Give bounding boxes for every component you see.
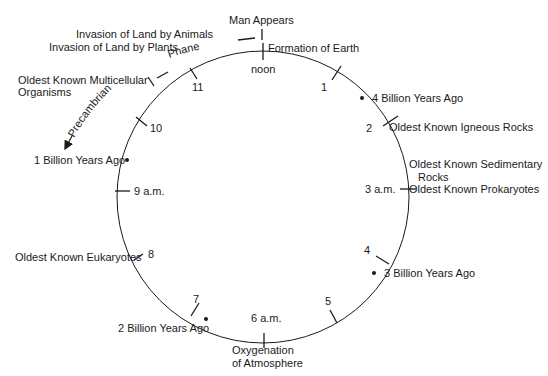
event-formation-of-earth: Formation of Earth: [268, 42, 359, 54]
time-point-dots: [125, 96, 376, 321]
hour-label-11: 11: [192, 81, 203, 93]
event-multicellular-2: Organisms: [18, 86, 72, 98]
time-point-1-billion: 1 Billion Years Ago: [34, 154, 125, 166]
event-land-plants: Invasion of Land by Plants: [49, 41, 179, 53]
hour-label-4: 4: [364, 244, 370, 256]
hour-label-9: 9 a.m.: [134, 185, 165, 197]
hour-label-8: 8: [148, 248, 154, 260]
eon-boundary-connector: [157, 72, 168, 78]
event-man-appears: Man Appears: [229, 14, 294, 26]
event-eukaryotes: Oldest Known Eukaryotes: [15, 251, 142, 263]
eon-precambrian: Precambrian: [65, 82, 113, 139]
multicellular-marker: [148, 77, 154, 86]
dot-2-billion: [204, 317, 208, 321]
event-oxygenation-1: Oxygenation: [232, 344, 294, 356]
hour-label-1: 1: [321, 81, 327, 93]
hour-label-7: 7: [193, 293, 199, 305]
dot-1-billion: [125, 158, 129, 162]
time-point-2-billion: 2 Billion Years Ago: [118, 322, 209, 334]
event-igneous-rocks: Oldest Known Igneous Rocks: [389, 121, 534, 133]
tick-5: [330, 310, 337, 323]
dot-3-billion: [372, 271, 376, 275]
event-prokaryotes: Oldest Known Prokaryotes: [409, 183, 540, 195]
time-point-4-billion: 4 Billion Years Ago: [372, 92, 463, 104]
precambrian-arrow: [66, 136, 72, 147]
event-sedimentary-rocks-1: Oldest Known Sedimentary: [409, 158, 543, 170]
tick-11: [190, 68, 197, 79]
hour-label-10: 10: [150, 122, 162, 134]
geological-clock-diagram: noon 1 2 3 a.m. 4 5 6 a.m. 7 8 9 a.m. 10…: [0, 0, 548, 376]
event-multicellular-1: Oldest Known Multicellular: [18, 74, 148, 86]
eon-precambrian-text: Precambrian: [65, 82, 113, 139]
event-oxygenation-2: of Atmosphere: [232, 357, 303, 369]
event-land-animals: Invasion of Land by Animals: [76, 28, 213, 40]
phanerozoic-connector: [238, 38, 255, 40]
event-sedimentary-rocks-2: Rocks: [418, 171, 449, 183]
hour-label-2: 2: [366, 122, 372, 134]
tick-4: [376, 256, 389, 264]
time-point-3-billion: 3 Billion Years Ago: [384, 267, 475, 279]
hour-label-3: 3 a.m.: [365, 183, 396, 195]
dot-4-billion: [360, 96, 364, 100]
hour-label-5: 5: [325, 295, 331, 307]
clock-circle: [117, 51, 409, 343]
hour-label-6: 6 a.m.: [251, 312, 282, 324]
hour-label-noon: noon: [251, 63, 275, 75]
